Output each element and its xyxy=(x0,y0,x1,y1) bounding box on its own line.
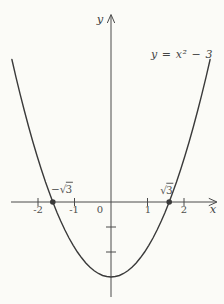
root-label-negative-sqrt3: −√3 xyxy=(51,184,73,195)
minus-sign: − xyxy=(51,183,60,195)
x-tick-label-minus-1: -1 xyxy=(69,205,79,215)
x-tick-label-1: 1 xyxy=(145,205,151,215)
root-point-left xyxy=(50,199,56,205)
y-axis-label: y xyxy=(97,14,104,26)
x-axis-label: x xyxy=(210,204,217,216)
x-tick-label-2: 2 xyxy=(181,205,187,215)
root-label-sqrt3: √3 xyxy=(160,185,173,196)
radicand: 3 xyxy=(65,182,73,195)
origin-label: 0 xyxy=(97,205,103,215)
figure-canvas: y = x² − 3 y x 0 -2 -1 1 2 −√3 √3 xyxy=(0,0,224,304)
x-tick-label-minus-2: -2 xyxy=(33,205,43,215)
radicand: 3 xyxy=(166,183,174,196)
equation-label: y = x² − 3 xyxy=(151,49,213,60)
plot-svg xyxy=(0,0,224,304)
root-point-right xyxy=(166,199,172,205)
